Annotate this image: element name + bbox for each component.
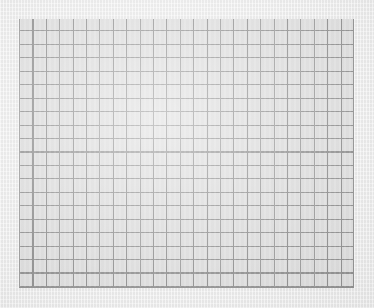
grid-cell <box>166 153 179 166</box>
grid-cell <box>340 46 353 59</box>
grid-cell <box>247 221 260 234</box>
grid-cell <box>113 234 126 247</box>
grid-cell <box>126 247 139 260</box>
grid-cell <box>46 234 59 247</box>
grid-cell <box>273 274 286 287</box>
grid-cell <box>260 234 273 247</box>
grid-cell <box>273 153 286 166</box>
grid-cell <box>260 261 273 274</box>
grid-cell <box>260 247 273 260</box>
grid-cell <box>99 127 112 140</box>
grid-cell <box>206 127 219 140</box>
grid-cell <box>166 100 179 113</box>
grid-cell <box>46 19 59 32</box>
grid-cell <box>19 19 32 32</box>
grid-cell <box>86 221 99 234</box>
grid-cell <box>260 167 273 180</box>
grid-cell <box>180 153 193 166</box>
grid-cell <box>220 73 233 86</box>
grid-cell <box>153 221 166 234</box>
grid-cell <box>287 46 300 59</box>
grid-cell <box>233 73 246 86</box>
grid-cell <box>273 194 286 207</box>
grid-cell <box>273 73 286 86</box>
grid-cell <box>327 100 340 113</box>
grid-cell <box>126 274 139 287</box>
grid-cell <box>220 207 233 220</box>
grid-cell <box>46 261 59 274</box>
grid-cell <box>327 59 340 72</box>
grid-cell <box>59 46 72 59</box>
grid-cell <box>287 274 300 287</box>
grid-cell <box>300 234 313 247</box>
grid-cell <box>260 140 273 153</box>
grid-cell <box>99 113 112 126</box>
grid-cell <box>220 261 233 274</box>
grid-cell <box>19 247 32 260</box>
grid-cell <box>32 59 45 72</box>
grid-cell <box>247 247 260 260</box>
grid-cell <box>126 153 139 166</box>
grid-cell <box>32 46 45 59</box>
grid-cell <box>206 261 219 274</box>
grid-cell <box>340 19 353 32</box>
grid-cell <box>260 19 273 32</box>
grid-cell <box>327 19 340 32</box>
graph-paper-sheet <box>0 0 374 308</box>
grid-cell <box>59 247 72 260</box>
grid-cell <box>314 113 327 126</box>
grid-cell <box>32 100 45 113</box>
grid-cell <box>73 221 86 234</box>
grid-cell <box>19 261 32 274</box>
grid-cell <box>273 207 286 220</box>
grid-cell <box>233 127 246 140</box>
grid-cell <box>140 46 153 59</box>
grid-cell <box>287 180 300 193</box>
grid-cell <box>166 73 179 86</box>
grid-cell <box>300 46 313 59</box>
grid-canvas[interactable] <box>19 19 354 288</box>
grid-cell <box>140 113 153 126</box>
grid-cell <box>233 100 246 113</box>
grid-cell <box>166 261 179 274</box>
grid-cell <box>314 59 327 72</box>
grid-cell <box>166 140 179 153</box>
grid-cell <box>19 194 32 207</box>
grid-cell <box>46 86 59 99</box>
grid-cell <box>140 247 153 260</box>
grid-cell <box>247 127 260 140</box>
grid-cell <box>86 73 99 86</box>
grid-cell <box>126 180 139 193</box>
grid-cell <box>300 194 313 207</box>
grid-cell <box>287 73 300 86</box>
grid-cell <box>220 274 233 287</box>
grid-cell <box>153 234 166 247</box>
grid-cell <box>32 167 45 180</box>
grid-cell <box>86 153 99 166</box>
grid-cell <box>206 234 219 247</box>
grid-cell <box>19 59 32 72</box>
grid-cell <box>314 86 327 99</box>
grid-cell <box>327 127 340 140</box>
grid-cell <box>32 180 45 193</box>
grid-cell <box>99 261 112 274</box>
grid-cell <box>206 153 219 166</box>
grid-cell <box>73 194 86 207</box>
grid-cell <box>46 247 59 260</box>
grid-cell <box>73 274 86 287</box>
grid-cell <box>126 167 139 180</box>
grid-cell <box>113 86 126 99</box>
grid-cell <box>327 113 340 126</box>
grid-cell <box>32 140 45 153</box>
grid-cell <box>166 207 179 220</box>
grid-cell <box>73 19 86 32</box>
grid-cell <box>113 113 126 126</box>
grid-cell <box>32 86 45 99</box>
grid-cell <box>166 234 179 247</box>
grid-cell <box>19 207 32 220</box>
grid-cell <box>73 234 86 247</box>
grid-cell <box>86 86 99 99</box>
grid-cell <box>86 180 99 193</box>
grid-cell <box>166 46 179 59</box>
grid-cell <box>99 46 112 59</box>
